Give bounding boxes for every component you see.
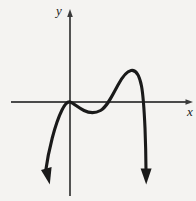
- right-branch-arrow-icon: [141, 169, 152, 185]
- polynomial-curve: [46, 70, 147, 172]
- y-axis-arrow-icon: [67, 9, 73, 17]
- graph-figure: y x: [0, 0, 196, 201]
- left-branch-arrow-icon: [41, 167, 52, 185]
- plot-canvas: [0, 0, 196, 201]
- y-axis-label: y: [56, 4, 62, 17]
- x-axis-label: x: [187, 105, 193, 118]
